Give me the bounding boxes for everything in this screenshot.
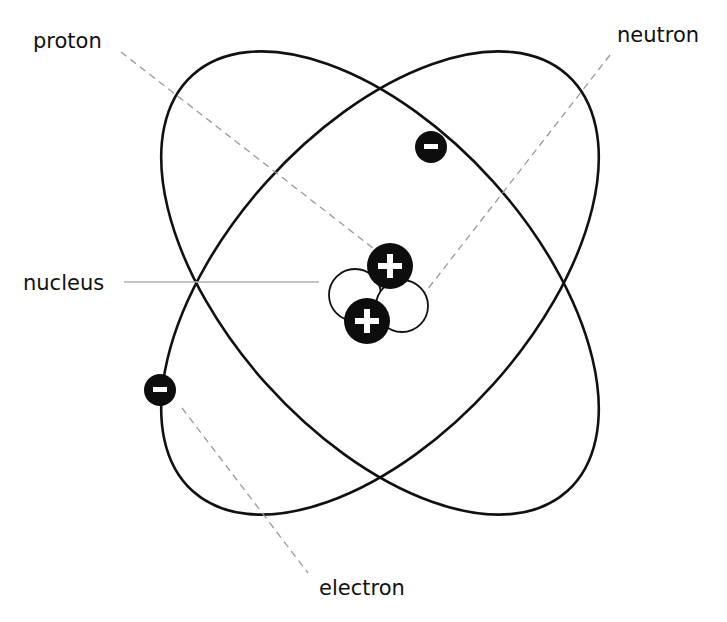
electron <box>144 374 176 406</box>
proton <box>367 243 413 289</box>
atom-diagram: proton neutron nucleus electron <box>0 0 727 622</box>
electron <box>415 131 447 163</box>
proton <box>344 298 390 344</box>
electron-leader-line <box>182 408 308 573</box>
electron-label: electron <box>319 576 405 600</box>
nucleus <box>329 243 428 344</box>
proton-leader-line <box>121 52 378 252</box>
plus-icon <box>387 254 393 278</box>
minus-icon <box>153 387 167 392</box>
plus-icon <box>364 309 370 333</box>
neutron-leader-line <box>413 55 610 308</box>
minus-icon <box>424 144 438 149</box>
proton-label: proton <box>33 29 102 53</box>
neutron-label: neutron <box>617 23 699 47</box>
nucleus-label: nucleus <box>23 271 104 295</box>
